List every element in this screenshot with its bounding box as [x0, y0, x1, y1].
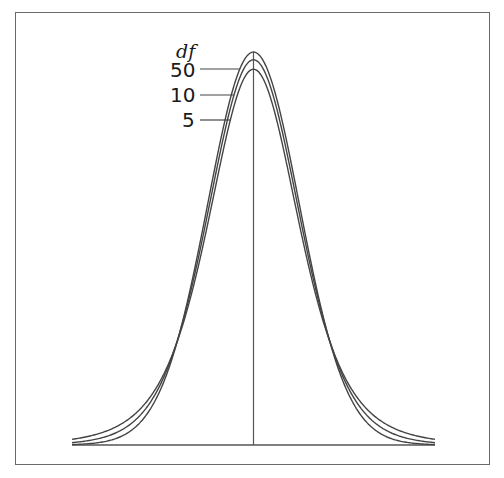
legend-label-df-10: 10	[170, 85, 195, 105]
legend-label-df-5: 5	[182, 110, 195, 130]
plot-area	[0, 0, 504, 478]
legend-label-df-50: 50	[170, 60, 195, 80]
